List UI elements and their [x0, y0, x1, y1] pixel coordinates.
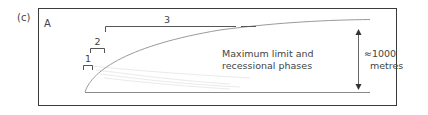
- phase-2-label: 2: [94, 36, 100, 47]
- phase-1-bracket: [84, 66, 93, 71]
- phase-3-label: 3: [164, 14, 170, 25]
- annotation-line-1: Maximum limit and: [222, 48, 314, 59]
- phase-3-bracket: [106, 27, 257, 33]
- glacier-profile-diagram: 1 2 3 A Maximum limit and recessional ph…: [0, 0, 428, 115]
- phase-2-bracket: [91, 49, 105, 54]
- corner-label-a: A: [44, 18, 51, 29]
- scale-value: ≈1000: [364, 48, 396, 59]
- diagram-frame: [39, 9, 397, 106]
- annotation-line-2: recessional phases: [222, 60, 312, 71]
- phase-1-label: 1: [85, 53, 91, 64]
- height-arrow: [356, 29, 362, 90]
- scale-unit: metres: [370, 60, 403, 71]
